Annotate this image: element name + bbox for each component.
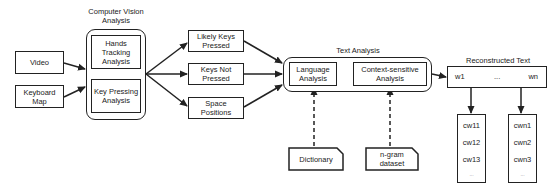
reconstructed-text-title: Reconstructed Text (455, 56, 541, 65)
language-analysis-label: Language Analysis (290, 65, 336, 83)
candidate-item: cw13 (458, 155, 485, 164)
context-analysis-box: Context-sensitive Analysis (353, 62, 427, 86)
reconstructed-text-bar: w1 ... wn (447, 66, 547, 88)
candidate-item: cw12 (458, 138, 485, 147)
video-label: Video (30, 58, 49, 67)
likely-keys-label: Likely Keys Pressed (195, 32, 237, 50)
dictionary-label: Dictionary (288, 147, 344, 171)
word-ellipsis: ... (494, 72, 500, 81)
keyboard-map-label: Keyboard Map (16, 88, 63, 106)
key-pressing-label: Key Pressing Analysis (92, 87, 140, 105)
candidate-list-last: cwn1 cwn2 cwn3 ... (508, 114, 537, 183)
first-word: w1 (455, 72, 465, 81)
space-positions-box: Space Positions (188, 97, 244, 119)
language-analysis-box: Language Analysis (289, 62, 337, 86)
key-pressing-box: Key Pressing Analysis (91, 79, 141, 113)
hands-tracking-label: Hands Tracking Analysis (92, 39, 140, 66)
last-word: wn (528, 72, 538, 81)
text-analysis-title: Text Analysis (320, 46, 396, 55)
keyboard-map-input-box: Keyboard Map (15, 85, 64, 108)
candidate-list-first: cw11 cw12 cw13 ... (457, 114, 486, 183)
keys-not-pressed-label: Keys Not Pressed (197, 65, 235, 83)
video-input-box: Video (15, 51, 64, 74)
candidate-item: cwn2 (509, 138, 536, 147)
candidate-item: cw11 (458, 121, 485, 130)
keys-not-pressed-box: Keys Not Pressed (188, 63, 244, 85)
candidate-item: cwn3 (509, 155, 536, 164)
candidate-item: cwn1 (509, 121, 536, 130)
candidate-item: ... (458, 171, 485, 177)
candidate-item: ... (509, 171, 536, 177)
dictionary-resource: Dictionary (288, 147, 344, 171)
context-analysis-label: Context-sensitive Analysis (358, 65, 422, 83)
likely-keys-box: Likely Keys Pressed (188, 30, 244, 52)
space-positions-label: Space Positions (197, 99, 235, 117)
ngram-resource: n-gram dataset (365, 147, 419, 171)
hands-tracking-box: Hands Tracking Analysis (91, 35, 141, 69)
ngram-label: n-gram dataset (365, 147, 419, 171)
computer-vision-title: Computer Vision Analysis (80, 7, 152, 25)
